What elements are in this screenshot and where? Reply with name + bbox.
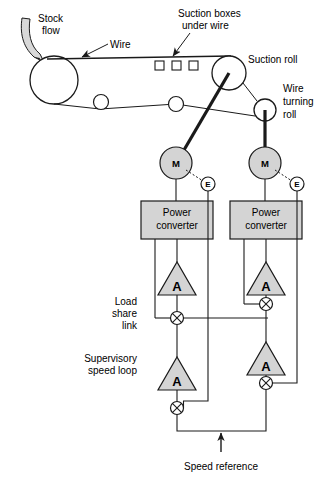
wire-lower-run — [54, 104, 255, 116]
summing-junction-left-current — [171, 312, 184, 325]
power-converter-right-line2: converter — [245, 220, 287, 231]
power-converter-left-line2: converter — [156, 220, 198, 231]
label-load-share-link-line2: share — [112, 308, 137, 319]
encoder-left-symbol: E — [205, 180, 211, 189]
guide-roll-1 — [94, 95, 109, 110]
speed-amplifier-left: A — [158, 357, 196, 390]
power-converter-right-line1: Power — [252, 207, 281, 218]
label-suction-boxes-line2: under wire — [182, 20, 229, 31]
current-amplifier-left-symbol: A — [172, 279, 182, 294]
label-wire-turning-roll-line3: roll — [283, 109, 296, 120]
speed-amplifier-left-symbol: A — [172, 374, 182, 389]
label-load-share-link-line1: Load — [115, 296, 137, 307]
motor-left-symbol: M — [172, 158, 180, 169]
label-wire-turning-roll-line1: Wire — [283, 83, 304, 94]
wire-section-drive-diagram: Stock flow Wire Suction boxes under wire… — [0, 0, 329, 479]
wire-segment-suction-to-turning — [243, 83, 257, 101]
breast-roll — [30, 56, 78, 104]
label-load-share-link-line3: link — [122, 320, 138, 331]
current-amplifier-right: A — [247, 262, 285, 295]
label-stock-flow-line1: Stock — [38, 13, 64, 24]
speed-amplifier-right-symbol: A — [261, 359, 271, 374]
power-converter-right: Power converter — [230, 201, 302, 239]
current-amplifier-left: A — [158, 262, 196, 295]
motor-right-symbol: M — [261, 158, 269, 169]
leader-wire — [82, 44, 108, 57]
label-supervisory-speed-loop-line1: Supervisory — [84, 353, 137, 364]
label-suction-roll: Suction roll — [248, 54, 297, 65]
leader-suction-boxes — [173, 33, 190, 56]
suction-box-2 — [172, 61, 181, 70]
current-amplifier-right-symbol: A — [261, 279, 271, 294]
power-converter-left-line1: Power — [163, 207, 192, 218]
guide-roll-2 — [169, 97, 184, 112]
encoder-right-symbol: E — [294, 180, 300, 189]
summing-junction-right-speed — [260, 377, 273, 390]
encoder-left: E — [201, 177, 215, 191]
label-speed-reference: Speed reference — [184, 461, 258, 472]
encoder-right: E — [290, 177, 304, 191]
label-wire: Wire — [110, 39, 131, 50]
motor-right: M — [249, 147, 281, 179]
label-supervisory-speed-loop-line2: speed loop — [88, 365, 137, 376]
suction-box-1 — [155, 61, 164, 70]
power-converter-left: Power converter — [141, 201, 213, 239]
summing-junction-right-current — [260, 298, 273, 311]
label-wire-turning-roll-line2: turning — [283, 96, 314, 107]
motor-left: M — [160, 147, 192, 179]
wire-upper-run — [47, 56, 231, 59]
speed-amplifier-right: A — [247, 342, 285, 375]
label-suction-boxes-line1: Suction boxes — [178, 8, 241, 19]
speed-reference-bus — [177, 390, 266, 432]
summing-junction-left-speed — [171, 402, 184, 415]
label-stock-flow-line2: flow — [42, 25, 61, 36]
suction-box-3 — [189, 61, 198, 70]
